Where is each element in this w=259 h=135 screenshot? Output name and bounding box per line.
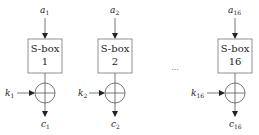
output-label-2: c2 [111, 119, 120, 130]
sbox-16-number: 16 [229, 56, 242, 67]
input-label-16: a16 [228, 5, 241, 16]
xor-icon-1 [35, 83, 55, 103]
sbox-16-label: S-box [221, 43, 250, 54]
output-label-1: c1 [41, 119, 50, 130]
sbox-2-label: S-box [101, 43, 130, 54]
sbox-1-number: 1 [42, 56, 48, 67]
key-label-2: k2 [78, 88, 87, 99]
sbox-unit-2: a2 S-box 2 k2 c2 [78, 5, 132, 130]
input-label-1: a1 [40, 5, 49, 16]
sbox-2-number: 2 [112, 56, 118, 67]
sbox-diagram: a1 S-box 1 k1 c1 a2 S-box 2 k2 c2 [0, 0, 259, 135]
output-label-16: c16 [229, 119, 242, 130]
xor-icon-16 [225, 83, 245, 103]
sbox-1-label: S-box [31, 43, 60, 54]
ellipsis: ··· [171, 65, 179, 74]
sbox-unit-1: a1 S-box 1 k1 c1 [5, 5, 62, 130]
key-label-16: k16 [191, 88, 204, 99]
sbox-unit-16: a16 S-box 16 k16 c16 [191, 5, 252, 130]
input-label-2: a2 [110, 5, 119, 16]
key-label-1: k1 [5, 88, 14, 99]
xor-icon-2 [105, 83, 125, 103]
